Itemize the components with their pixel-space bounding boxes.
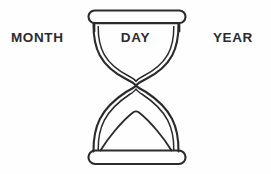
hourglass-sand-mound <box>101 111 172 150</box>
hourglass-date-diagram: MONTH DAY YEAR <box>0 0 271 174</box>
hourglass-lower-bulb-inner <box>98 89 174 150</box>
label-year: YEAR <box>213 31 253 45</box>
hourglass-top-cap <box>89 11 186 24</box>
hourglass-bottom-cap <box>89 151 186 165</box>
hourglass-icon <box>0 0 271 174</box>
